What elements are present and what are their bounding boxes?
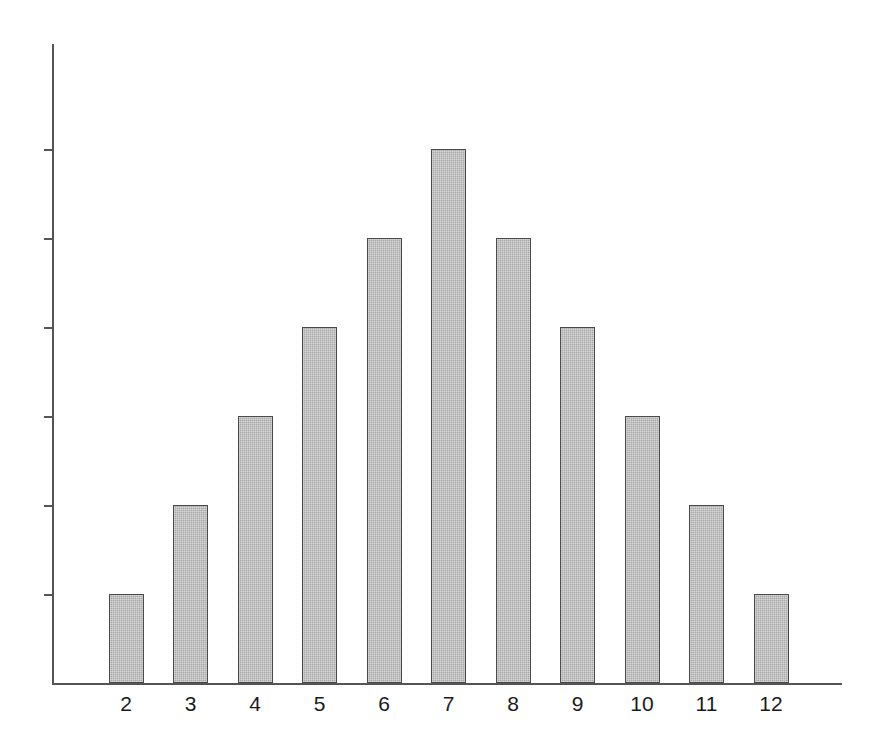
x-axis-label-7: 7	[419, 691, 479, 717]
bar-chart: 23456789101112	[0, 0, 887, 738]
bar-4	[238, 416, 273, 683]
x-axis-label-11: 11	[677, 691, 737, 717]
bar-9	[560, 327, 595, 683]
bar-10	[625, 416, 660, 683]
bar-11	[689, 505, 724, 683]
x-axis-label-2: 2	[96, 691, 156, 717]
x-axis-label-9: 9	[548, 691, 608, 717]
x-axis-label-10: 10	[612, 691, 672, 717]
x-axis-label-8: 8	[483, 691, 543, 717]
x-axis-label-4: 4	[225, 691, 285, 717]
bar-5	[302, 327, 337, 683]
bar-6	[367, 238, 402, 683]
bar-3	[173, 505, 208, 683]
x-axis-label-5: 5	[290, 691, 350, 717]
plot-area: 23456789101112	[0, 0, 887, 738]
x-axis-label-6: 6	[354, 691, 414, 717]
x-axis-label-3: 3	[161, 691, 221, 717]
bar-8	[496, 238, 531, 683]
bar-12	[754, 594, 789, 683]
bar-2	[109, 594, 144, 683]
bar-7	[431, 149, 466, 683]
x-axis-label-12: 12	[741, 691, 801, 717]
